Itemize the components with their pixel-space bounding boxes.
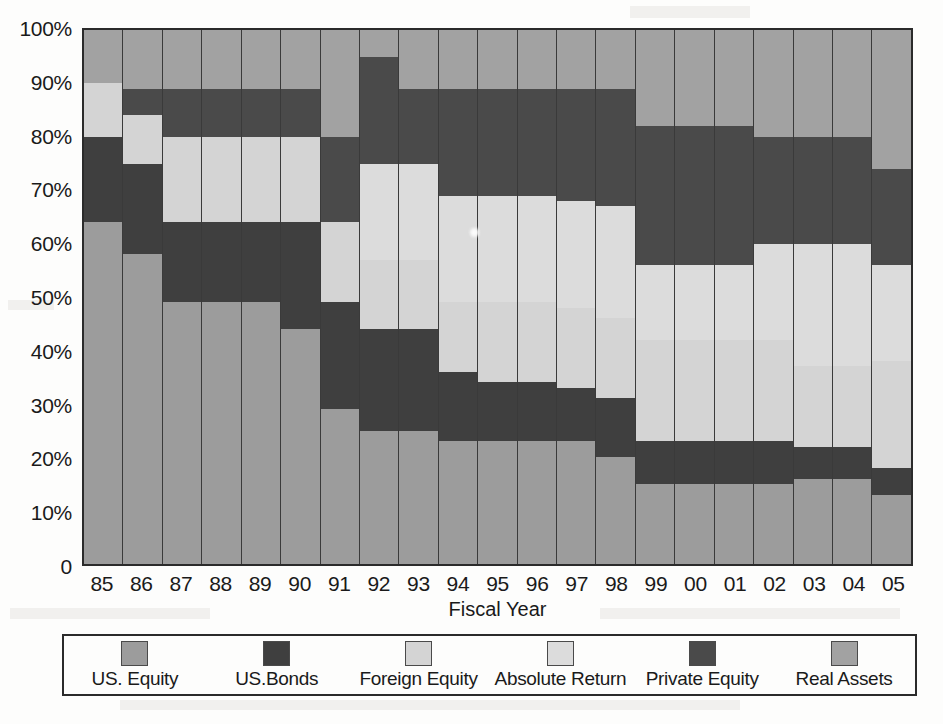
y-axis-tick-label: 60% bbox=[31, 233, 72, 254]
bar-97 bbox=[557, 30, 596, 564]
bar-85 bbox=[84, 30, 123, 564]
bar-segment-private-equity bbox=[163, 89, 201, 137]
bar-04 bbox=[833, 30, 872, 564]
x-axis-tick-label: 03 bbox=[794, 570, 834, 600]
bar-segment-real-assets bbox=[478, 30, 516, 89]
bar-segment-us-bonds bbox=[518, 382, 556, 441]
x-axis-tick-label: 89 bbox=[240, 570, 280, 600]
bar-segment-real-assets bbox=[518, 30, 556, 89]
bar-segment-us-equity bbox=[84, 222, 122, 564]
x-axis-tick-label: 87 bbox=[161, 570, 201, 600]
plot-area bbox=[82, 28, 913, 566]
bar-segment-private-equity bbox=[360, 57, 398, 164]
x-axis-tick-label: 86 bbox=[122, 570, 162, 600]
bar-segment-us-bonds bbox=[281, 222, 319, 329]
bar-segment-us-equity bbox=[675, 484, 713, 564]
bar-segment-private-equity bbox=[872, 169, 910, 265]
scan-artifact bbox=[120, 700, 740, 710]
bar-segment-real-assets bbox=[242, 30, 280, 89]
bar-segment-private-equity bbox=[557, 89, 595, 201]
bar-segment-foreign-equity bbox=[833, 366, 871, 446]
bar-segment-real-assets bbox=[675, 30, 713, 126]
bar-segment-real-assets bbox=[596, 30, 634, 89]
x-axis-tick-label: 88 bbox=[201, 570, 241, 600]
bar-segment-foreign-equity bbox=[360, 260, 398, 329]
bar-segment-us-bonds bbox=[321, 302, 359, 409]
bar-segment-private-equity bbox=[636, 126, 674, 265]
bar-segment-private-equity bbox=[281, 89, 319, 137]
bar-segment-us-equity bbox=[439, 441, 477, 564]
legend-label: Real Assets bbox=[796, 668, 893, 690]
x-axis-tick-label: 92 bbox=[359, 570, 399, 600]
bar-segment-us-equity bbox=[518, 441, 556, 564]
y-axis-tick-label: 80% bbox=[31, 125, 72, 146]
bar-86 bbox=[123, 30, 162, 564]
legend-label: US. Equity bbox=[92, 668, 179, 690]
bar-segment-private-equity bbox=[754, 137, 792, 244]
bar-segment-foreign-equity bbox=[242, 137, 280, 222]
bar-segment-us-equity bbox=[754, 484, 792, 564]
bar-segment-private-equity bbox=[478, 89, 516, 196]
bar-segment-real-assets bbox=[872, 30, 910, 169]
bar-segment-us-equity bbox=[321, 409, 359, 564]
scan-artifact bbox=[630, 6, 750, 18]
bar-segment-real-assets bbox=[715, 30, 753, 126]
x-axis-tick-label: 98 bbox=[597, 570, 637, 600]
bar-segment-foreign-equity bbox=[439, 302, 477, 371]
bar-segment-us-bonds bbox=[163, 222, 201, 302]
bar-segment-foreign-equity bbox=[202, 137, 240, 222]
bar-segment-real-assets bbox=[281, 30, 319, 89]
x-axis-tick-label: 97 bbox=[557, 570, 597, 600]
legend-swatch-absolute-return bbox=[547, 641, 574, 666]
bar-segment-absolute-return bbox=[675, 265, 713, 340]
bar-98 bbox=[596, 30, 635, 564]
bar-segment-foreign-equity bbox=[754, 340, 792, 441]
x-axis-tick-label: 96 bbox=[517, 570, 557, 600]
bar-segment-real-assets bbox=[439, 30, 477, 89]
bar-segment-absolute-return bbox=[715, 265, 753, 340]
bar-segment-private-equity bbox=[518, 89, 556, 196]
bar-93 bbox=[399, 30, 438, 564]
bar-segment-real-assets bbox=[833, 30, 871, 137]
bar-segment-private-equity bbox=[833, 137, 871, 244]
y-axis-tick-label: 90% bbox=[31, 71, 72, 92]
bar-segment-us-equity bbox=[123, 254, 161, 564]
bar-segment-foreign-equity bbox=[399, 260, 437, 329]
legend-swatch-us-equity bbox=[121, 641, 148, 666]
bar-segment-us-bonds bbox=[754, 441, 792, 484]
legend-item-private-equity: Private Equity bbox=[631, 641, 773, 690]
bar-segment-real-assets bbox=[557, 30, 595, 89]
legend-item-foreign-equity: Foreign Equity bbox=[348, 641, 490, 690]
bar-segment-us-bonds bbox=[675, 441, 713, 484]
bar-segment-us-equity bbox=[596, 457, 634, 564]
bar-segment-us-equity bbox=[557, 441, 595, 564]
y-axis-tick-label: 0 bbox=[61, 556, 72, 577]
bar-segment-foreign-equity bbox=[321, 222, 359, 302]
bar-segment-us-bonds bbox=[123, 164, 161, 255]
bar-segment-us-equity bbox=[202, 302, 240, 564]
bar-87 bbox=[163, 30, 202, 564]
bar-segment-real-assets bbox=[794, 30, 832, 137]
bar-segment-us-equity bbox=[636, 484, 674, 564]
bar-segment-us-equity bbox=[242, 302, 280, 564]
bar-segment-foreign-equity bbox=[163, 137, 201, 222]
x-axis-tick-label: 99 bbox=[636, 570, 676, 600]
bar-segment-real-assets bbox=[123, 30, 161, 89]
bar-segment-us-bonds bbox=[84, 137, 122, 222]
bar-segment-absolute-return bbox=[360, 164, 398, 260]
legend-label: Foreign Equity bbox=[359, 668, 477, 690]
bar-segment-foreign-equity bbox=[794, 366, 832, 446]
bar-segment-private-equity bbox=[123, 89, 161, 116]
y-axis-tick-label: 20% bbox=[31, 448, 72, 469]
bar-segment-private-equity bbox=[321, 137, 359, 222]
bar-segment-foreign-equity bbox=[478, 302, 516, 382]
bar-segment-us-bonds bbox=[872, 468, 910, 495]
y-axis-tick-label: 30% bbox=[31, 394, 72, 415]
legend-swatch-real-assets bbox=[831, 641, 858, 666]
bar-segment-absolute-return bbox=[439, 196, 477, 303]
bar-segment-real-assets bbox=[321, 30, 359, 137]
bar-segment-real-assets bbox=[399, 30, 437, 89]
x-axis-tick-label: 91 bbox=[319, 570, 359, 600]
bar-segment-us-equity bbox=[360, 431, 398, 565]
bar-01 bbox=[715, 30, 754, 564]
